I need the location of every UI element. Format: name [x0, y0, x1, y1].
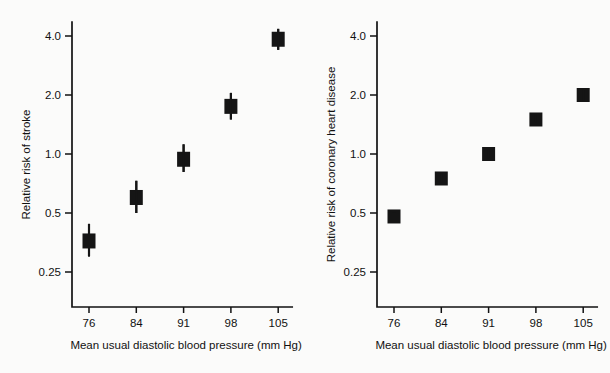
data-point [272, 29, 285, 50]
x-tick-label: 91 [482, 317, 495, 329]
data-point [482, 147, 495, 161]
x-tick-label: 98 [225, 317, 238, 329]
x-tick-label: 84 [130, 317, 143, 329]
x-axis-title: Mean usual diastolic blood pressure (mm … [375, 339, 607, 351]
data-point [388, 209, 401, 223]
y-tick-label: 0.25 [344, 266, 366, 278]
x-tick-label: 105 [574, 317, 593, 329]
data-point [83, 224, 96, 257]
data-points-chd [388, 88, 590, 223]
x-tick-label: 76 [388, 317, 401, 329]
x-tick-label: 91 [177, 317, 190, 329]
y-tick-label: 1.0 [350, 148, 366, 160]
y-tick-label: 0.5 [350, 207, 366, 219]
y-tick-label: 1.0 [45, 148, 61, 160]
chart-panel-stroke: 4.02.01.00.50.2576849198105 Relative ris… [0, 0, 305, 373]
data-point [529, 112, 542, 126]
y-tick-label: 4.0 [45, 30, 61, 42]
y-tick-label: 2.0 [45, 89, 61, 101]
chart-panel-chd: 4.02.01.00.50.2576849198105 Relative ris… [305, 0, 610, 373]
x-axis-title: Mean usual diastolic blood pressure (mm … [70, 339, 302, 351]
x-tick-label: 105 [269, 317, 288, 329]
tick-labels-stroke: 4.02.01.00.50.2576849198105 [39, 30, 288, 329]
axes-chd [370, 22, 597, 313]
x-tick-label: 84 [435, 317, 448, 329]
axes-stroke [65, 22, 292, 313]
data-point [435, 171, 448, 185]
data-points-stroke [83, 29, 285, 257]
tick-labels-chd: 4.02.01.00.50.2576849198105 [344, 30, 593, 329]
y-axis-title: Relative risk of stroke [20, 110, 32, 220]
data-point [577, 88, 590, 102]
data-point [224, 93, 237, 120]
data-point [130, 181, 143, 213]
figure-container: 4.02.01.00.50.2576849198105 Relative ris… [0, 0, 610, 373]
y-tick-label: 0.5 [45, 207, 61, 219]
y-tick-label: 4.0 [350, 30, 366, 42]
y-tick-label: 0.25 [39, 266, 61, 278]
x-tick-label: 98 [530, 317, 543, 329]
axis-lines [377, 22, 597, 307]
plot-svg-stroke: 4.02.01.00.50.2576849198105 Relative ris… [0, 0, 305, 373]
data-point [177, 144, 190, 172]
plot-svg-chd: 4.02.01.00.50.2576849198105 Relative ris… [305, 0, 610, 373]
y-axis-title: Relative risk of coronary heart disease [325, 67, 337, 263]
y-tick-label: 2.0 [350, 89, 366, 101]
x-tick-label: 76 [83, 317, 96, 329]
